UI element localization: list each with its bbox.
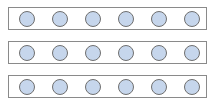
circle: [19, 45, 35, 61]
circle: [184, 79, 200, 95]
circle: [151, 79, 167, 95]
circle: [118, 11, 134, 27]
row-1: [8, 7, 207, 30]
circle: [19, 79, 35, 95]
circle: [118, 79, 134, 95]
circle: [19, 11, 35, 27]
row-2: [8, 41, 207, 64]
circle: [151, 11, 167, 27]
row-3: [8, 75, 207, 98]
circle: [118, 45, 134, 61]
circle: [184, 11, 200, 27]
circle: [85, 45, 101, 61]
circle: [184, 45, 200, 61]
circle: [52, 11, 68, 27]
circle: [52, 79, 68, 95]
circle: [85, 11, 101, 27]
circle: [52, 45, 68, 61]
circle: [85, 79, 101, 95]
circle: [151, 45, 167, 61]
